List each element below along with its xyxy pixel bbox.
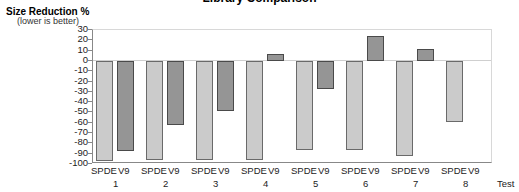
x-series-label: V9 bbox=[118, 165, 130, 176]
x-category-label: 6 bbox=[363, 178, 368, 189]
x-series-label: V9 bbox=[468, 165, 480, 176]
bar-v9-test-1 bbox=[117, 61, 134, 151]
chart-title: Library Comparison bbox=[0, 0, 519, 5]
x-series-label: SPDE bbox=[91, 165, 117, 176]
bar-spde-test-5 bbox=[296, 61, 313, 150]
bar-v9-test-4 bbox=[267, 54, 284, 61]
bar-v9-test-6 bbox=[367, 36, 384, 61]
x-series-label: V9 bbox=[168, 165, 180, 176]
x-series-label: SPDE bbox=[441, 165, 467, 176]
x-series-label: SPDE bbox=[391, 165, 417, 176]
y-tick-label: -100 bbox=[48, 157, 88, 168]
bar-spde-test-6 bbox=[346, 61, 363, 150]
bar-spde-test-7 bbox=[396, 61, 413, 156]
x-category-label: 7 bbox=[413, 178, 418, 189]
bar-spde-test-4 bbox=[246, 61, 263, 160]
x-category-label: 3 bbox=[213, 178, 218, 189]
x-series-label: SPDE bbox=[291, 165, 317, 176]
x-series-label: SPDE bbox=[241, 165, 267, 176]
x-series-label: V9 bbox=[218, 165, 230, 176]
x-series-label: SPDE bbox=[341, 165, 367, 176]
x-series-label: SPDE bbox=[191, 165, 217, 176]
x-series-label: V9 bbox=[418, 165, 430, 176]
x-category-label: 5 bbox=[313, 178, 318, 189]
bar-spde-test-2 bbox=[146, 61, 163, 160]
x-category-label: 8 bbox=[463, 178, 468, 189]
x-category-label: 4 bbox=[263, 178, 268, 189]
x-axis-label: Test bbox=[497, 178, 514, 189]
x-series-label: V9 bbox=[368, 165, 380, 176]
bar-spde-test-1 bbox=[96, 61, 113, 161]
plot-area bbox=[92, 29, 492, 163]
x-category-label: 2 bbox=[163, 178, 168, 189]
bar-v9-test-7 bbox=[417, 49, 434, 61]
x-series-label: SPDE bbox=[141, 165, 167, 176]
bar-spde-test-8 bbox=[446, 61, 463, 122]
x-series-label: V9 bbox=[268, 165, 280, 176]
x-series-label: V9 bbox=[318, 165, 330, 176]
bar-v9-test-2 bbox=[167, 61, 184, 125]
y-tick-mark bbox=[88, 163, 92, 164]
x-category-label: 1 bbox=[113, 178, 118, 189]
bar-spde-test-3 bbox=[196, 61, 213, 160]
bar-v9-test-5 bbox=[317, 61, 334, 89]
bar-v9-test-3 bbox=[217, 61, 234, 112]
